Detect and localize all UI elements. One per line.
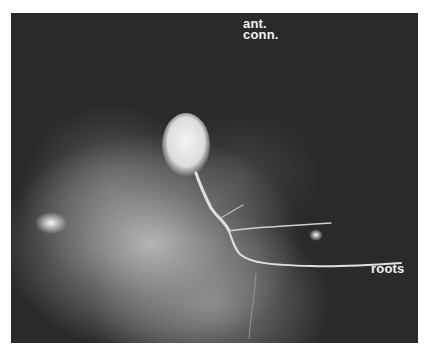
roots-label: roots bbox=[371, 263, 405, 274]
left-bright-spot bbox=[35, 212, 67, 234]
axon-branches bbox=[196, 173, 401, 338]
cell-body bbox=[162, 113, 210, 177]
ant-conn-label-line2: conn. bbox=[243, 29, 279, 40]
right-bright-spot bbox=[309, 229, 323, 241]
neuron-drawing bbox=[11, 13, 418, 343]
ant-conn-label: ant. conn. bbox=[243, 18, 279, 40]
micrograph: ant. conn. roots bbox=[11, 13, 418, 343]
